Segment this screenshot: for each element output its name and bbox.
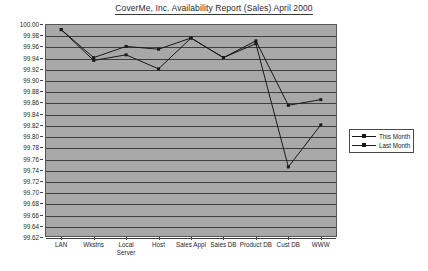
y-axis-tick-label: 99.74 xyxy=(23,166,39,173)
data-point-marker xyxy=(60,28,63,31)
x-axis: LANWkstnsLocal ServerHostSales ApplSales… xyxy=(45,239,337,269)
data-point-marker xyxy=(92,59,95,62)
legend-label: Last Month xyxy=(376,142,410,149)
y-axis-tick xyxy=(40,24,43,25)
x-axis-tick xyxy=(223,236,224,240)
y-axis-tick-label: 99.98 xyxy=(23,32,39,39)
data-point-marker xyxy=(157,67,160,70)
legend-item-last-month: Last Month xyxy=(352,141,410,150)
legend-marker-icon xyxy=(352,141,376,150)
data-point-marker xyxy=(157,48,160,51)
y-axis-tick-label: 99.80 xyxy=(23,133,39,140)
data-point-marker xyxy=(319,98,322,101)
y-axis-tick xyxy=(40,226,43,227)
data-point-marker xyxy=(125,45,128,48)
y-axis-tick xyxy=(40,181,43,182)
x-axis-tick xyxy=(321,236,322,240)
chart-title-text: CoverMe, Inc. Availability Report (Sales… xyxy=(115,3,312,15)
y-axis-tick-label: 99.66 xyxy=(23,211,39,218)
y-axis-tick xyxy=(40,35,43,36)
y-axis-tick-label: 99.96 xyxy=(23,43,39,50)
data-point-marker xyxy=(287,165,290,168)
data-point-marker xyxy=(254,42,257,45)
chart-legend: This Month Last Month xyxy=(349,129,414,153)
series-line xyxy=(61,30,321,167)
y-axis-tick-label: 99.92 xyxy=(23,65,39,72)
chart-title: CoverMe, Inc. Availability Report (Sales… xyxy=(0,3,428,13)
y-axis-tick xyxy=(40,102,43,103)
data-point-marker xyxy=(287,104,290,107)
x-axis-tick xyxy=(126,236,127,240)
y-axis-tick-label: 99.88 xyxy=(23,88,39,95)
y-axis-tick xyxy=(40,159,43,160)
data-point-marker xyxy=(222,56,225,59)
data-point-marker xyxy=(190,37,193,40)
x-axis-tick xyxy=(159,236,160,240)
y-axis: 100.0099.9899.9699.9499.9299.9099.8899.8… xyxy=(0,24,43,237)
x-axis-tick xyxy=(94,236,95,240)
data-point-marker xyxy=(319,123,322,126)
y-axis-tick xyxy=(40,203,43,204)
x-axis-tick xyxy=(288,236,289,240)
y-axis-tick xyxy=(40,114,43,115)
y-axis-tick-label: 99.68 xyxy=(23,200,39,207)
data-point-marker xyxy=(92,56,95,59)
y-axis-tick xyxy=(40,69,43,70)
y-axis-tick xyxy=(40,170,43,171)
y-axis-tick xyxy=(40,91,43,92)
chart-page: CoverMe, Inc. Availability Report (Sales… xyxy=(0,0,428,271)
legend-item-this-month: This Month xyxy=(352,132,410,141)
y-axis-tick xyxy=(40,237,43,238)
series-line xyxy=(61,30,321,106)
y-axis-tick-label: 99.78 xyxy=(23,144,39,151)
data-point-marker xyxy=(254,39,257,42)
y-axis-tick xyxy=(40,136,43,137)
y-axis-tick-label: 99.82 xyxy=(23,121,39,128)
y-axis-tick-label: 99.94 xyxy=(23,54,39,61)
y-axis-tick-label: 99.70 xyxy=(23,189,39,196)
y-axis-tick xyxy=(40,215,43,216)
y-axis-tick xyxy=(40,125,43,126)
y-axis-tick-label: 99.62 xyxy=(23,234,39,241)
x-axis-tick xyxy=(191,236,192,240)
x-axis-tick xyxy=(61,236,62,240)
y-axis-tick-label: 99.84 xyxy=(23,110,39,117)
y-axis-tick-label: 99.76 xyxy=(23,155,39,162)
legend-label: This Month xyxy=(376,133,410,140)
series-layer xyxy=(45,24,337,237)
x-axis-tick-label: WWW xyxy=(298,241,344,249)
y-axis-tick xyxy=(40,192,43,193)
data-point-marker xyxy=(125,53,128,56)
y-axis-tick xyxy=(40,46,43,47)
legend-marker-icon xyxy=(352,132,376,141)
x-axis-tick xyxy=(256,236,257,240)
y-axis-tick xyxy=(40,80,43,81)
y-axis-tick-label: 100.00 xyxy=(20,21,39,28)
y-axis-tick-label: 99.90 xyxy=(23,77,39,84)
y-axis-tick xyxy=(40,147,43,148)
y-axis-tick xyxy=(40,58,43,59)
y-axis-tick-label: 99.64 xyxy=(23,222,39,229)
y-axis-tick-label: 99.86 xyxy=(23,99,39,106)
y-axis-tick-label: 99.72 xyxy=(23,177,39,184)
